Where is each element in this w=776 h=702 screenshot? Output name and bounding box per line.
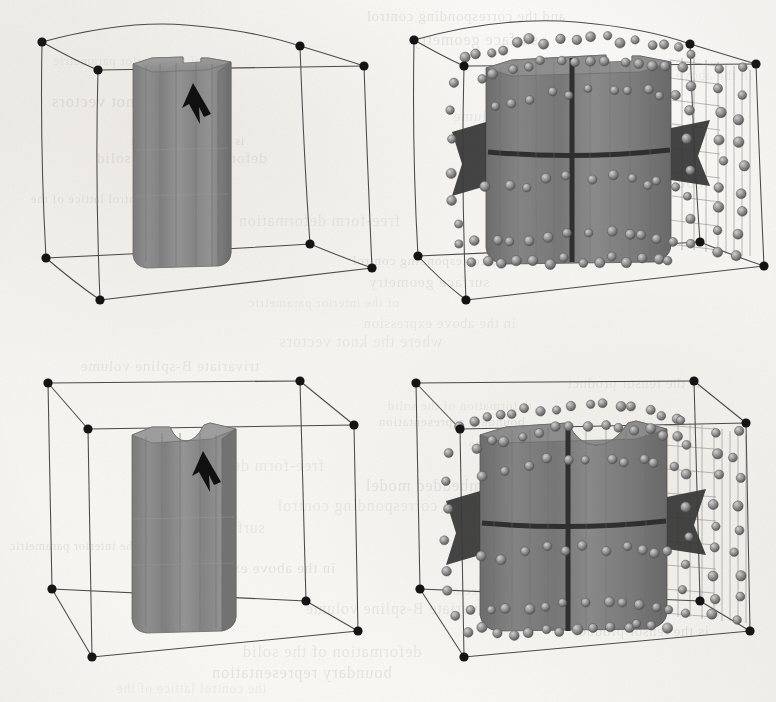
control-point-sphere bbox=[562, 229, 571, 238]
control-point-sphere bbox=[463, 628, 473, 638]
control-point-sphere bbox=[643, 181, 652, 190]
control-point-sphere bbox=[491, 102, 499, 110]
control-point-sphere bbox=[581, 456, 589, 464]
control-point-sphere bbox=[670, 462, 679, 471]
control-point-sphere bbox=[610, 86, 619, 95]
control-point-sphere bbox=[589, 624, 598, 633]
control-point-sphere bbox=[524, 63, 533, 72]
control-point-sphere bbox=[674, 43, 683, 52]
panel-bottom-left-undeformed-solid-shaded bbox=[0, 351, 388, 702]
control-point-sphere bbox=[442, 567, 452, 577]
control-point-sphere bbox=[487, 69, 497, 79]
control-point-sphere bbox=[525, 461, 534, 470]
panel-bottom-right-undeformed-solid-control-lattice bbox=[388, 351, 776, 702]
control-point-sphere bbox=[626, 402, 635, 411]
control-point-sphere bbox=[737, 207, 747, 217]
control-point-sphere bbox=[507, 410, 516, 419]
control-point-sphere bbox=[585, 56, 595, 66]
control-point-sphere bbox=[619, 458, 628, 467]
control-point-sphere bbox=[558, 599, 566, 607]
control-point-sphere bbox=[535, 428, 544, 437]
control-point-sphere bbox=[712, 429, 721, 438]
control-point-sphere bbox=[623, 542, 632, 551]
control-point-sphere bbox=[440, 536, 449, 545]
control-point-sphere bbox=[511, 255, 521, 265]
control-point-sphere bbox=[671, 90, 681, 100]
control-point-sphere bbox=[572, 624, 583, 635]
control-point-sphere bbox=[525, 96, 534, 105]
control-point-sphere bbox=[470, 417, 480, 427]
control-point-sphere bbox=[448, 135, 457, 144]
control-point-sphere bbox=[669, 237, 678, 246]
control-point-sphere bbox=[500, 603, 510, 613]
control-point-sphere bbox=[685, 533, 693, 541]
control-point-sphere bbox=[466, 606, 475, 615]
control-point-sphere bbox=[444, 504, 453, 513]
control-point-sphere bbox=[488, 49, 497, 58]
control-point-sphere bbox=[528, 256, 538, 266]
control-point-sphere bbox=[644, 85, 653, 94]
control-point-sphere bbox=[659, 40, 668, 49]
control-point-sphere bbox=[733, 115, 743, 125]
control-point-sphere bbox=[586, 32, 596, 42]
control-point-sphere bbox=[628, 174, 637, 183]
control-point-sphere bbox=[496, 555, 506, 565]
control-point-sphere bbox=[682, 440, 691, 449]
control-point-sphere bbox=[541, 603, 550, 612]
control-point-sphere bbox=[455, 220, 463, 228]
control-point-sphere bbox=[663, 547, 672, 556]
control-point-sphere bbox=[483, 413, 492, 422]
control-point-sphere bbox=[736, 592, 745, 601]
control-point-sphere bbox=[545, 259, 555, 269]
control-point-sphere bbox=[608, 170, 618, 180]
control-point-sphere bbox=[630, 426, 639, 435]
control-point-sphere bbox=[565, 91, 573, 99]
control-point-sphere bbox=[616, 401, 626, 411]
control-point-sphere bbox=[493, 235, 503, 245]
control-point-sphere bbox=[498, 437, 508, 447]
control-point-sphere bbox=[686, 214, 695, 223]
control-point-sphere bbox=[524, 236, 534, 246]
control-point-sphere bbox=[686, 166, 695, 175]
control-point-sphere bbox=[687, 50, 695, 58]
control-point-sphere bbox=[731, 251, 741, 261]
control-point-sphere bbox=[712, 449, 722, 459]
control-point-sphere bbox=[739, 161, 749, 171]
control-point-sphere bbox=[738, 91, 747, 100]
control-point-sphere bbox=[636, 230, 645, 239]
control-point-sphere bbox=[733, 501, 743, 511]
control-point-sphere bbox=[712, 522, 720, 530]
control-point-sphere bbox=[681, 560, 690, 569]
control-point-sphere bbox=[455, 240, 463, 248]
control-point-sphere bbox=[646, 405, 655, 414]
control-point-sphere bbox=[483, 256, 493, 266]
control-point-sphere bbox=[646, 423, 656, 433]
control-point-sphere bbox=[451, 611, 460, 620]
control-point-sphere bbox=[634, 600, 644, 610]
control-point-sphere bbox=[505, 180, 515, 190]
control-point-sphere bbox=[541, 173, 551, 183]
solid-body-top-left bbox=[133, 57, 231, 268]
control-point-sphere bbox=[678, 62, 688, 72]
panel-top-left-deformed-solid-shaded bbox=[0, 0, 388, 351]
control-point-sphere bbox=[595, 258, 605, 268]
control-point-sphere bbox=[671, 183, 679, 191]
control-point-sphere bbox=[676, 416, 684, 424]
control-point-sphere bbox=[519, 433, 527, 441]
control-point-sphere bbox=[735, 426, 744, 435]
control-point-sphere bbox=[602, 546, 611, 555]
control-point-sphere bbox=[559, 253, 568, 262]
control-point-sphere bbox=[524, 33, 534, 43]
control-point-sphere bbox=[477, 471, 487, 481]
control-point-sphere bbox=[499, 46, 508, 55]
control-point-sphere bbox=[505, 237, 514, 246]
control-point-sphere bbox=[710, 594, 720, 604]
control-point-sphere bbox=[496, 410, 505, 419]
control-point-sphere bbox=[512, 37, 522, 47]
control-point-sphere bbox=[542, 453, 552, 463]
control-point-sphere bbox=[444, 449, 453, 458]
control-point-sphere bbox=[480, 181, 490, 191]
control-point-sphere bbox=[488, 436, 497, 445]
control-point-sphere bbox=[715, 65, 724, 74]
control-point-sphere bbox=[673, 432, 683, 442]
